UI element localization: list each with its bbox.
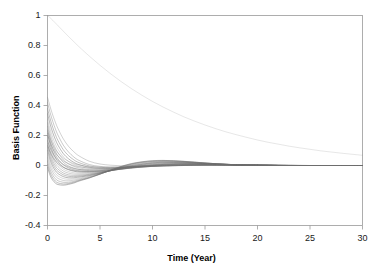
y-tick-label: 0 xyxy=(35,161,40,170)
series-line xyxy=(48,114,363,169)
series-line xyxy=(48,131,363,167)
series-line xyxy=(48,109,363,168)
y-tick-label: -0.4 xyxy=(25,221,41,230)
y-axis-ticks xyxy=(44,16,48,226)
x-tick-label: 20 xyxy=(238,234,278,243)
y-axis-title: Basis Function xyxy=(12,95,21,160)
series-line xyxy=(48,103,363,168)
x-axis-ticks xyxy=(48,226,363,230)
y-tick-label: 0.4 xyxy=(28,101,41,110)
x-tick-label: 25 xyxy=(290,234,330,243)
series-line xyxy=(48,97,363,166)
series-line xyxy=(48,133,363,172)
series-line xyxy=(48,145,363,171)
x-tick-label: 30 xyxy=(343,234,383,243)
y-tick-label: 0.6 xyxy=(28,71,41,80)
y-tick-label: 0.2 xyxy=(28,131,41,140)
y-tick-label: 0.8 xyxy=(28,41,41,50)
chart-container: 10.80.60.40.20-0.2-0.4 051015202530 Time… xyxy=(0,0,383,276)
y-tick-label: -0.2 xyxy=(25,191,41,200)
x-tick-label: 5 xyxy=(80,234,120,243)
x-tick-label: 15 xyxy=(185,234,225,243)
x-axis-title: Time (Year) xyxy=(0,254,383,263)
y-tick-label: 1 xyxy=(35,11,40,20)
x-tick-label: 0 xyxy=(28,234,68,243)
series-lines xyxy=(48,16,363,186)
series-line xyxy=(48,16,363,156)
x-tick-label: 10 xyxy=(133,234,173,243)
series-line xyxy=(48,119,363,169)
plot-frame xyxy=(48,16,363,226)
